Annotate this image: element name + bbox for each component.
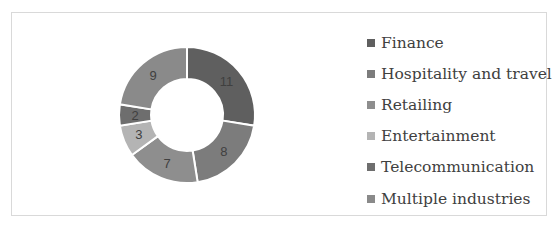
legend-item-multiple-industries: Multiple industries [367,183,552,214]
legend-label: Entertainment [381,127,496,145]
legend-item-retailing: Retailing [367,89,552,120]
legend-swatch-icon [367,132,375,140]
legend-swatch-icon [367,195,375,203]
legend-swatch-icon [367,39,375,47]
donut-chart: 1187329 [112,40,262,190]
legend-label: Telecommunication [381,158,534,176]
chart-legend: Finance Hospitality and travel Retailing… [367,27,552,214]
legend-item-hospitality: Hospitality and travel [367,58,552,89]
data-label: 2 [131,108,138,123]
data-label: 11 [220,74,234,89]
data-label: 9 [150,68,157,83]
legend-item-telecommunication: Telecommunication [367,152,552,183]
data-label: 8 [220,144,227,159]
legend-swatch-icon [367,70,375,78]
legend-swatch-icon [367,163,375,171]
legend-label: Multiple industries [381,190,531,208]
legend-label: Retailing [381,96,452,114]
data-label: 7 [163,156,170,171]
legend-item-finance: Finance [367,27,552,58]
data-label: 3 [135,127,142,142]
legend-label: Finance [381,34,444,52]
legend-label: Hospitality and travel [381,65,552,83]
legend-item-entertainment: Entertainment [367,121,552,152]
donut-segments [119,47,255,183]
legend-swatch-icon [367,101,375,109]
